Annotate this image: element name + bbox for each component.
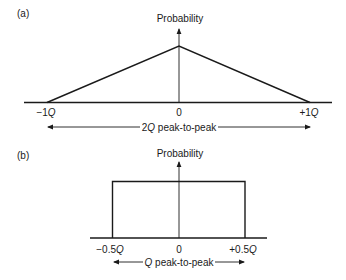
panel-b-label: (b) <box>17 150 29 161</box>
panel-b-tick-minus-0.5q: −0.5Q <box>96 244 124 255</box>
panel-a-tick-minus-1q: −1Q <box>36 107 55 118</box>
panel-b-span-label: Q peak-to-peak <box>145 257 215 268</box>
panel-a-label: (a) <box>17 8 29 19</box>
quantization-error-pdf-diagram: (a) Probability −1Q 0 +1Q 2Q peak-to-pea… <box>0 0 346 280</box>
panel-a-y-axis-label: Probability <box>157 13 204 24</box>
panel-a: (a) Probability −1Q 0 +1Q 2Q peak-to-pea… <box>17 8 332 133</box>
panel-b: (b) Probability −0.5Q 0 +0.5Q Q peak-to-… <box>17 148 267 268</box>
panel-a-triangle-pdf <box>47 46 310 103</box>
panel-b-tick-zero: 0 <box>176 244 182 255</box>
panel-a-tick-plus-1q: +1Q <box>299 107 318 118</box>
panel-a-span-label: 2Q peak-to-peak <box>142 122 217 133</box>
panel-b-tick-plus-0.5q: +0.5Q <box>229 244 257 255</box>
panel-b-y-axis-label: Probability <box>157 148 204 159</box>
panel-a-tick-zero: 0 <box>176 107 182 118</box>
